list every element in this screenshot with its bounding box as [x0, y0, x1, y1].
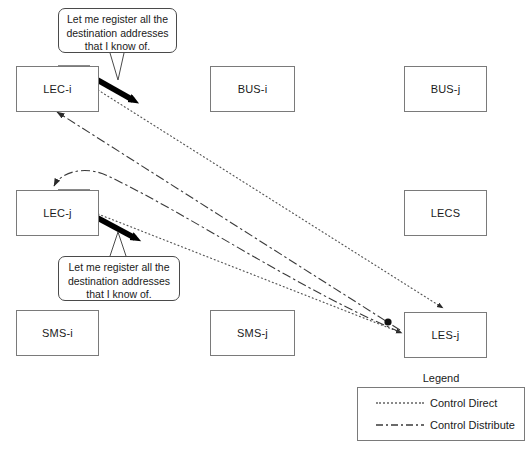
- legend-box: Control Direct Control Distribute: [357, 387, 525, 441]
- legend-swatch-dotted-icon: [376, 402, 424, 404]
- callout-lec-i: Let me register all the destination addr…: [58, 8, 177, 53]
- callout-lec-j-text: Let me register all the destination addr…: [68, 261, 170, 300]
- legend-item-control-distribute: Control Distribute: [358, 414, 524, 436]
- node-bus-i[interactable]: BUS-i: [210, 66, 295, 112]
- legend-item-control-direct-label: Control Direct: [430, 397, 497, 409]
- junction-dot: [384, 318, 391, 325]
- node-lecs[interactable]: LECS: [404, 190, 487, 236]
- callout-lec-i-text: Let me register all the destination addr…: [66, 13, 168, 52]
- callout-tail-lec-i: [110, 53, 124, 80]
- diagram-canvas: LEC-i BUS-i BUS-j LEC-j LECS SMS-i SMS-j…: [0, 0, 531, 451]
- node-lec-j[interactable]: LEC-j: [16, 190, 99, 236]
- node-sms-j[interactable]: SMS-j: [210, 310, 295, 356]
- node-lec-j-label: LEC-j: [43, 207, 72, 219]
- node-bus-j[interactable]: BUS-j: [404, 66, 487, 112]
- node-bus-j-label: BUS-j: [431, 83, 461, 95]
- edge-lec-i-thick-register: [94, 78, 133, 100]
- node-lecs-label: LECS: [431, 207, 461, 219]
- edge-lec-j-thick-register: [94, 216, 135, 238]
- callout-tail-lec-j: [110, 232, 126, 256]
- node-bus-i-label: BUS-i: [238, 83, 268, 95]
- callout-lec-j: Let me register all the destination addr…: [58, 256, 180, 301]
- legend: Legend Control Direct Control Distribute: [357, 372, 525, 441]
- node-les-j-label: LES-j: [432, 329, 460, 341]
- node-lec-i-label: LEC-i: [43, 83, 72, 95]
- legend-item-control-distribute-label: Control Distribute: [430, 419, 515, 431]
- legend-item-control-direct: Control Direct: [358, 392, 524, 414]
- node-sms-j-label: SMS-j: [237, 327, 268, 339]
- node-les-j[interactable]: LES-j: [404, 312, 487, 358]
- node-sms-i-label: SMS-i: [42, 327, 73, 339]
- legend-title: Legend: [357, 372, 525, 384]
- node-sms-i[interactable]: SMS-i: [16, 310, 99, 356]
- edge-les-j-to-lec-j-distribute: [54, 171, 400, 332]
- node-lec-i[interactable]: LEC-i: [16, 66, 99, 112]
